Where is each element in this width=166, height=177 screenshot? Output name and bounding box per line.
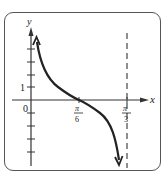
- y-axis-label: y: [26, 16, 32, 27]
- x-axis-label: x: [149, 93, 155, 105]
- x-tick-label-pi-6-den: 6: [75, 115, 79, 124]
- origin-label: 0: [23, 103, 28, 114]
- y-tick-label-1: 1: [20, 82, 25, 93]
- y-axis-arrow-icon: [29, 27, 34, 36]
- cot-curve: [37, 42, 119, 160]
- x-axis-arrow-icon: [140, 98, 149, 103]
- x-tick-label-pi-6-num: π: [75, 104, 80, 113]
- x-tick-label-pi-3-den: 3: [124, 115, 128, 124]
- chart-canvas: y x 0 1 π 6 π 3: [0, 0, 166, 177]
